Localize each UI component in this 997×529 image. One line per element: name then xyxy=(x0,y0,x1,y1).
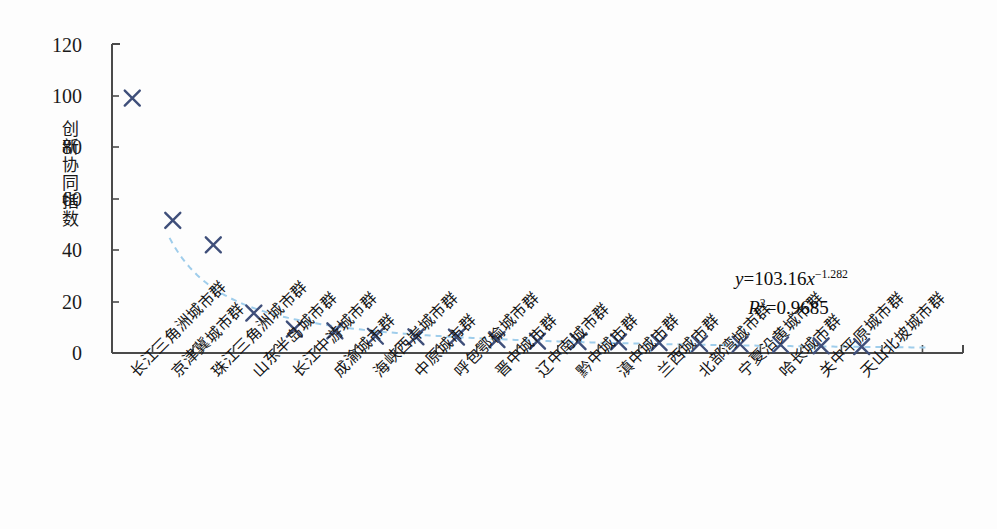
equation-x-symbol: x xyxy=(806,268,814,289)
equation-exponent: −1.282 xyxy=(815,268,848,281)
r-squared-value: =0.9685 xyxy=(766,298,829,319)
chart-figure: 创新协同指数 120 100 80 60 40 20 0 长江三角洲城市群京津冀… xyxy=(0,0,997,529)
data-point-marker xyxy=(206,237,221,252)
data-point-marker xyxy=(165,213,180,228)
y-axis-ticks xyxy=(112,96,119,302)
equation-coefficient: =103.16 xyxy=(743,268,806,289)
regression-annotation: y=103.16x−1.282 R2=0.9685 xyxy=(735,262,848,321)
data-point-marker xyxy=(125,91,140,106)
r-squared-symbol: R xyxy=(748,298,760,319)
